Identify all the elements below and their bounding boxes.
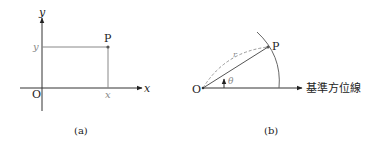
y-tick-label: y: [32, 41, 39, 52]
origin-b: [202, 87, 205, 90]
diagram-a: y x P O y x (a): [20, 6, 151, 136]
point-p: [106, 45, 109, 48]
point-p-label: P: [104, 32, 112, 45]
origin-label: O: [32, 88, 41, 101]
y-axis-label: y: [38, 6, 46, 19]
figure: y x P O y x (a) P O r θ 基準方位線 (b): [0, 0, 376, 150]
caption-b: (b): [264, 125, 278, 136]
point-p-label-b: P: [272, 40, 280, 53]
origin-label-b: O: [192, 83, 201, 96]
radius-label: r: [233, 50, 238, 59]
x-axis-label: x: [144, 82, 151, 95]
reference-line-label: 基準方位線: [306, 81, 361, 95]
angle-label: θ: [228, 76, 234, 86]
point-p-b: [266, 45, 269, 48]
caption-a: (a): [74, 125, 88, 136]
diagram-b: P O r θ 基準方位線 (b): [192, 32, 361, 136]
x-tick-label: x: [105, 89, 111, 100]
